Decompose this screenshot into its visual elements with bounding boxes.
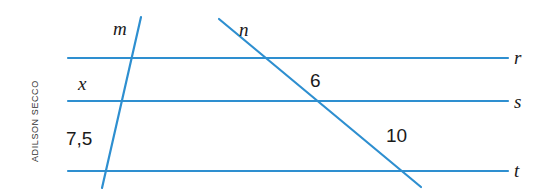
transversal-lines-group [102,17,421,188]
measure-label-7-5: 7,5 [66,129,92,148]
geometry-figure: m n r s t x 7,5 6 10 ADILSON SECCO [0,0,547,190]
figure-canvas [0,0,547,190]
measure-label-10: 10 [386,126,407,145]
line-label-n: n [239,20,249,39]
line-label-t: t [514,161,519,180]
line-label-s: s [514,92,521,111]
line-label-m: m [113,19,127,38]
transversal-line-n [219,19,421,187]
credit-text: ADILSON SECCO [30,80,40,162]
parallel-lines-group [68,58,508,171]
line-label-r: r [514,48,521,67]
transversal-line-m [102,17,141,188]
measure-label-6: 6 [310,71,321,90]
measure-label-x: x [78,74,86,93]
